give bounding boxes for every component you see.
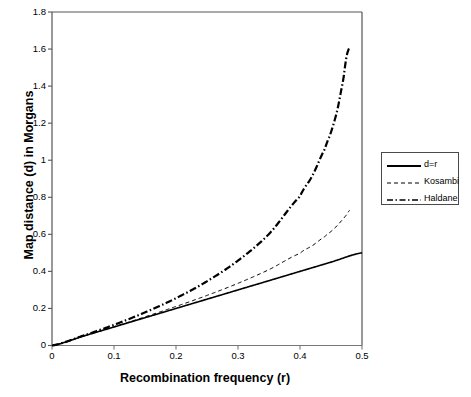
chart-legend: d=r Kosambi Haldane — [381, 152, 459, 205]
legend-swatch-dashdot-icon — [386, 192, 422, 204]
legend-item-kosambi: Kosambi — [382, 172, 458, 189]
legend-swatch-solid-icon — [386, 158, 422, 170]
chart-figure: Map distance (d) in Morgans Recombinatio… — [0, 0, 471, 397]
legend-item-d-equals-r: d=r — [382, 155, 458, 172]
tick-marks — [48, 12, 362, 350]
series-layer — [52, 47, 362, 345]
legend-label-2: Haldane — [424, 193, 458, 203]
series-line-kosambi — [52, 210, 350, 345]
legend-label-0: d=r — [424, 159, 437, 169]
series-line-d-r — [52, 253, 362, 346]
legend-swatch-dashed-icon — [386, 175, 422, 187]
legend-label-1: Kosambi — [424, 176, 459, 186]
legend-item-haldane: Haldane — [382, 189, 458, 206]
